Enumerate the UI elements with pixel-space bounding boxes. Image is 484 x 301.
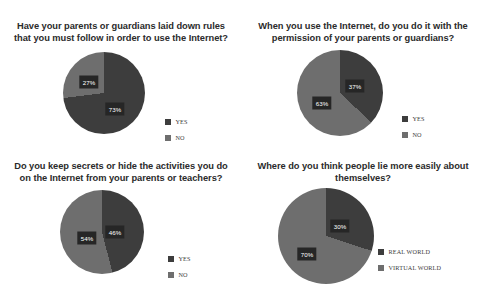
slice-label-light: 63% bbox=[312, 97, 331, 110]
chart-legend: REAL WORLD VIRTUAL WORLD bbox=[378, 248, 441, 271]
legend-swatch-icon bbox=[378, 249, 384, 255]
legend-swatch-icon bbox=[168, 272, 174, 278]
chart-body: 27% 73% YES NO bbox=[0, 44, 242, 134]
legend-item-no[interactable]: NO bbox=[168, 271, 191, 278]
chart-legend: YES NO bbox=[165, 118, 188, 141]
legend-item-yes[interactable]: YES bbox=[168, 255, 191, 262]
legend-item-real-world[interactable]: REAL WORLD bbox=[378, 248, 441, 255]
slice-label-dark: 46% bbox=[105, 226, 124, 239]
legend-label: YES bbox=[413, 115, 425, 122]
pie-wrapper: 37% 63% bbox=[297, 50, 383, 136]
legend-swatch-icon bbox=[168, 256, 174, 262]
chart-legend: YES NO bbox=[168, 255, 191, 278]
chart-panel-lie-more-easily: Where do you think people lie more easil… bbox=[242, 150, 484, 301]
legend-label: NO bbox=[176, 134, 185, 141]
legend-swatch-icon bbox=[165, 135, 171, 141]
legend-label: REAL WORLD bbox=[389, 248, 431, 255]
chart-grid: Have your parents or guardians laid down… bbox=[0, 0, 484, 301]
slice-label-dark: 37% bbox=[345, 80, 364, 93]
chart-title: Do you keep secrets or hide the activiti… bbox=[0, 150, 242, 184]
legend-item-no[interactable]: NO bbox=[165, 134, 188, 141]
chart-body: 37% 63% YES NO bbox=[242, 44, 484, 136]
legend-label: VIRTUAL WORLD bbox=[389, 264, 442, 271]
legend-item-no[interactable]: NO bbox=[402, 131, 425, 138]
pie-wrapper: 30% 70% bbox=[278, 188, 374, 284]
slice-label-dark: 30% bbox=[330, 220, 349, 233]
legend-label: YES bbox=[176, 118, 188, 125]
pie-chart bbox=[297, 50, 383, 136]
legend-item-virtual-world[interactable]: VIRTUAL WORLD bbox=[378, 264, 441, 271]
pie-chart bbox=[60, 190, 144, 274]
chart-title: When you use the Internet, do you do it … bbox=[242, 0, 484, 44]
chart-body: 46% 54% YES NO bbox=[0, 184, 242, 274]
chart-body: 30% 70% REAL WORLD VIRTUAL WORLD bbox=[242, 184, 484, 284]
pie-wrapper: 46% 54% bbox=[60, 190, 144, 274]
chart-panel-keep-secrets: Do you keep secrets or hide the activiti… bbox=[0, 150, 242, 301]
slice-label-light: 70% bbox=[297, 248, 316, 261]
pie-wrapper: 27% 73% bbox=[63, 52, 145, 134]
pie-chart bbox=[278, 188, 374, 284]
legend-swatch-icon bbox=[165, 119, 171, 125]
legend-item-yes[interactable]: YES bbox=[402, 115, 425, 122]
pie-chart bbox=[63, 52, 145, 134]
legend-label: YES bbox=[179, 255, 191, 262]
slice-label-light: 54% bbox=[77, 232, 96, 245]
legend-swatch-icon bbox=[402, 132, 408, 138]
slice-label-light: 27% bbox=[79, 76, 98, 89]
legend-swatch-icon bbox=[378, 265, 384, 271]
slice-label-dark: 73% bbox=[105, 103, 124, 116]
chart-title: Where do you think people lie more easil… bbox=[242, 150, 484, 184]
chart-legend: YES NO bbox=[402, 115, 425, 138]
chart-title: Have your parents or guardians laid down… bbox=[0, 0, 242, 44]
legend-item-yes[interactable]: YES bbox=[165, 118, 188, 125]
chart-panel-internet-permission: When you use the Internet, do you do it … bbox=[242, 0, 484, 150]
legend-label: NO bbox=[179, 271, 188, 278]
legend-label: NO bbox=[413, 131, 422, 138]
legend-swatch-icon bbox=[402, 116, 408, 122]
chart-panel-parents-rules: Have your parents or guardians laid down… bbox=[0, 0, 242, 150]
